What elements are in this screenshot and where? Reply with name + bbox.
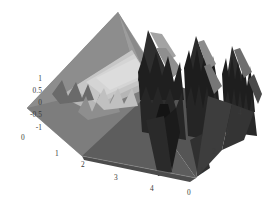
- z-tick-label-0.5: 0.5: [10, 87, 42, 94]
- x-tick-label-3: 3: [114, 174, 118, 181]
- z-tick-label-1: 1: [14, 75, 42, 82]
- z-tick-label-neg0.5: -0.5: [8, 111, 42, 118]
- surface-mesh: [27, 12, 262, 182]
- y-tick-label-4: 4: [238, 109, 242, 116]
- x-tick-label-0: 0: [21, 134, 25, 141]
- y-tick-label-1: 1: [200, 167, 204, 174]
- figure-canvas: 1 0.5 0 -0.5 -1 0 1 2 3 4 0 1 2 3 4: [0, 0, 262, 207]
- z-tick-label-0: 0: [14, 99, 42, 106]
- z-tick-label-neg1: -1: [12, 124, 42, 131]
- y-tick-label-0: 0: [187, 189, 191, 196]
- surface-sawtooth-left-c: [96, 88, 138, 110]
- y-tick-label-2: 2: [212, 148, 216, 155]
- x-tick-label-4: 4: [150, 185, 154, 192]
- y-tick-label-3: 3: [225, 129, 229, 136]
- x-tick-label-1: 1: [55, 150, 59, 157]
- x-tick-label-2: 2: [81, 161, 85, 168]
